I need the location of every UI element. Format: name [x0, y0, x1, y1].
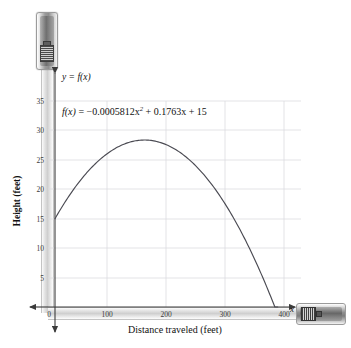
- curve-label: y = f(x): [62, 72, 91, 82]
- x-axis-variable-label: x: [290, 304, 294, 314]
- equation-plus-1: +: [146, 106, 152, 117]
- y-axis-title: Height (feet): [12, 161, 22, 241]
- gridlines-vertical: [107, 101, 284, 307]
- equation-exponent: 2: [140, 105, 143, 112]
- equation-label: f(x) = −0.0005812x2 + 0.1763x + 15: [62, 106, 207, 117]
- graph-figure: 35 30 25 20 15 10 5 0 100 200 300 400 x …: [0, 0, 351, 348]
- equation-term-linear: 0.1763x: [154, 106, 187, 117]
- equation-term-quadratic: −0.0005812x: [87, 106, 140, 117]
- equation-constant: 15: [197, 106, 207, 117]
- plot-area: [0, 0, 351, 348]
- x-tick-label-300: 300: [213, 310, 237, 319]
- y-tick-label-30: 30: [26, 126, 44, 135]
- y-tick-label-5: 5: [26, 274, 44, 283]
- gridlines-horizontal: [48, 101, 301, 278]
- equation-equals: =: [78, 106, 84, 117]
- y-tick-label-15: 15: [26, 215, 44, 224]
- y-tick-label-10: 10: [26, 244, 44, 253]
- equation-plus-2: +: [189, 106, 195, 117]
- y-tick-label-35: 35: [26, 97, 44, 106]
- x-tick-label-200: 200: [154, 310, 178, 319]
- x-axis-title: Distance traveled (feet): [60, 324, 290, 335]
- y-tick-label-25: 25: [26, 156, 44, 165]
- equation-lhs: f(x): [62, 106, 76, 117]
- x-tick-label-100: 100: [95, 310, 119, 319]
- y-tick-label-20: 20: [26, 185, 44, 194]
- origin-label: 0: [44, 310, 54, 319]
